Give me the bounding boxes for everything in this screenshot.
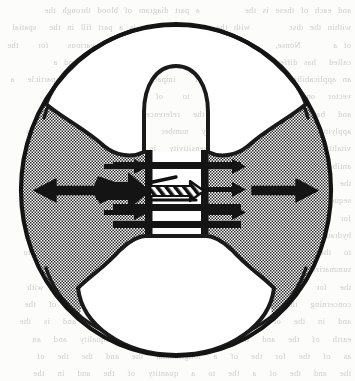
figure-svg <box>0 0 355 381</box>
figure-root: and each of these is the a part diagram … <box>0 0 355 381</box>
channel-bar-bottom <box>113 221 241 228</box>
